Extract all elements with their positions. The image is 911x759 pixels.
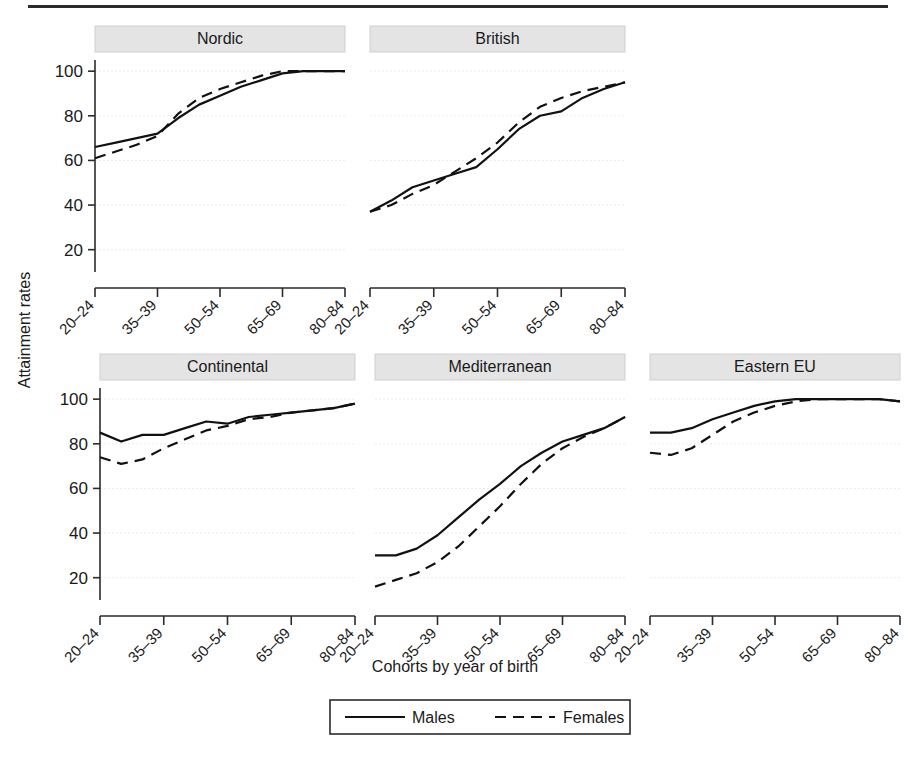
panel-continental: Continental2040608010020–2435–3950–5465–… [60,354,357,666]
legend-label-males: Males [412,709,455,726]
figure-root: Nordic2040608010020–2435–3950–5465–6980–… [0,0,911,759]
y-axis-title: Attainment rates [16,272,33,389]
panel-nordic: Nordic2040608010020–2435–3950–5465–6980–… [55,26,347,338]
series-line-females [370,82,625,211]
x-tick-label: 35–39 [118,296,160,338]
y-tick-label: 20 [64,241,83,260]
x-tick-label: 20–24 [56,296,98,338]
attainment-rates-chart: Nordic2040608010020–2435–3950–5465–6980–… [0,0,911,759]
y-tick-label: 60 [64,151,83,170]
x-tick-label: 35–39 [124,624,166,666]
x-tick-label: 50–54 [188,624,230,666]
series-line-males [370,82,625,211]
panel-mediterranean: Mediterranean20–2435–3950–5465–6980–84 [336,354,628,666]
y-tick-label: 60 [69,479,88,498]
x-tick-label: 65–69 [252,624,294,666]
panel-title-continental: Continental [187,358,268,375]
x-tick-label: 50–54 [458,296,500,338]
panel-eastern-eu: Eastern EU20–2435–3950–5465–6980–84 [611,354,903,666]
panel-title-nordic: Nordic [197,30,243,47]
y-tick-label: 40 [69,524,88,543]
x-tick-label: 20–24 [61,624,103,666]
series-line-males [375,417,625,555]
series-line-males [650,399,900,432]
series-line-females [100,404,355,464]
y-tick-label: 40 [64,196,83,215]
series-line-females [650,399,900,455]
legend-label-females: Females [563,709,624,726]
x-tick-label: 35–39 [394,296,436,338]
x-tick-label: 80–84 [586,296,628,338]
y-tick-label: 20 [69,569,88,588]
y-tick-label: 100 [55,62,83,81]
x-tick-label: 35–39 [673,624,715,666]
x-tick-label: 50–54 [181,296,223,338]
x-tick-label: 80–84 [861,624,903,666]
x-axis-title: Cohorts by year of birth [372,658,538,675]
panel-title-mediterranean: Mediterranean [448,358,551,375]
panel-title-british: British [475,30,519,47]
legend: MalesFemales [330,700,630,734]
y-tick-label: 80 [69,435,88,454]
x-tick-label: 65–69 [243,296,285,338]
series-line-males [95,71,345,147]
y-tick-label: 80 [64,107,83,126]
y-tick-label: 100 [60,390,88,409]
x-tick-label: 65–69 [522,296,564,338]
series-line-females [95,71,345,158]
panel-title-eastern-eu: Eastern EU [734,358,816,375]
series-line-females [375,417,625,587]
x-tick-label: 50–54 [736,624,778,666]
x-tick-label: 65–69 [798,624,840,666]
panel-british: British20–2435–3950–5465–6980–84 [331,26,628,338]
